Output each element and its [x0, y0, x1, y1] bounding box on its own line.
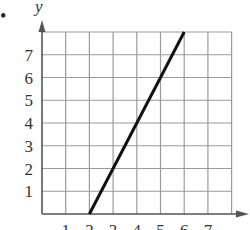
y-tick-label: 1	[25, 182, 34, 201]
x-axis-arrow-icon	[236, 211, 249, 218]
x-tick-label: 1	[61, 221, 70, 230]
y-tick-label: 5	[25, 91, 34, 110]
axes	[39, 20, 250, 218]
y-axis-arrow-icon	[39, 20, 46, 32]
x-tick-label: 3	[109, 221, 118, 230]
item-bullet: •	[0, 6, 6, 26]
x-tick-label: 5	[156, 221, 165, 230]
x-tick-label: 4	[133, 221, 142, 230]
x-tick-label: 6	[180, 221, 189, 230]
y-axis-label: y	[33, 0, 43, 16]
line-chart: • 12345671234567 y	[0, 0, 250, 230]
y-tick-label: 4	[25, 114, 34, 133]
x-tick-label: 7	[204, 221, 213, 230]
y-tick-label: 3	[25, 137, 34, 156]
y-tick-label: 6	[25, 69, 34, 88]
y-tick-label: 2	[25, 160, 34, 179]
x-tick-label: 2	[85, 221, 94, 230]
y-tick-label: 7	[25, 46, 34, 65]
